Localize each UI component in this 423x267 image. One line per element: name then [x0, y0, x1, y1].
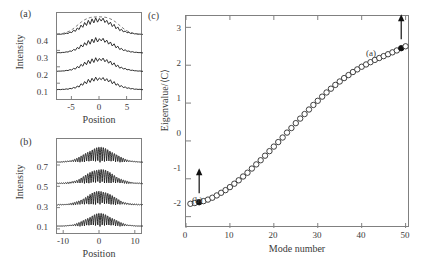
panel-a-xtick-0: -5 [58, 102, 84, 112]
panel-c-data-point [284, 130, 289, 135]
panel-c-data-point [306, 107, 311, 112]
panel-c: (c) Eigenvalue/⟨C⟩ 3 2 1 0 -1 -2 (a) (b)… [145, 0, 423, 267]
panel-c-scatter [186, 16, 410, 228]
panel-a-ytick-3: 0.1 [24, 87, 48, 97]
panel-c-label: (c) [148, 10, 159, 21]
panel-b: (b) Intensity 0.7 0.5 0.3 0.1 -10 0 10 P… [0, 130, 150, 267]
panel-c-annotation-arrow-head [398, 14, 404, 21]
panel-b-tickmarks [56, 138, 146, 240]
panel-c-ytick-n1: -1 [158, 163, 181, 173]
panel-c-data-point [319, 94, 324, 99]
panel-b-xtick-0: -10 [50, 236, 76, 246]
panel-c-xtick-5: 50 [393, 230, 417, 240]
panel-c-data-point [271, 144, 276, 149]
panel-c-data-point [262, 153, 267, 158]
panel-c-xtick-0: 0 [173, 230, 197, 240]
panel-b-xtick-1: 0 [86, 236, 112, 246]
panel-a-ytick-0: 0.4 [24, 36, 48, 46]
panel-c-data-point [302, 111, 307, 116]
panel-c-ytick-3: 3 [163, 23, 181, 33]
panel-a-xlabel: Position [56, 114, 142, 125]
panel-c-data-point [245, 170, 250, 175]
panel-b-xlabel: Position [56, 248, 142, 259]
panel-a-ylabel: Intensity [14, 12, 25, 92]
panel-c-data-point [298, 116, 303, 121]
panel-c-xtick-2: 20 [261, 230, 285, 240]
panel-a-ytick-1: 0.3 [24, 53, 48, 63]
panel-a-xtick-1: 0 [86, 102, 112, 112]
panel-c-ytick-n2: -2 [158, 198, 181, 208]
panel-c-ytick-2: 2 [163, 58, 181, 68]
panel-c-data-point [276, 139, 281, 144]
panel-c-annotation-b-label: (b) [192, 195, 203, 205]
panel-c-data-point [258, 158, 263, 163]
panel-b-ytick-3: 0.1 [24, 222, 48, 232]
panel-c-annotation-arrow-head [196, 168, 202, 175]
panel-b-ytick-1: 0.5 [24, 182, 48, 192]
panel-a: (a) Intensity 0.4 0.3 0.2 0.1 -5 0 5 Pos… [0, 0, 150, 130]
panel-c-xlabel: Mode number [185, 243, 409, 254]
panel-c-xtick-3: 30 [305, 230, 329, 240]
panel-c-data-point [293, 120, 298, 125]
panel-c-xtick-1: 10 [217, 230, 241, 240]
panel-c-data-point [289, 125, 294, 130]
panel-c-data-point [267, 148, 272, 153]
panel-a-tickmarks [56, 12, 146, 106]
panel-a-xtick-2: 5 [114, 102, 140, 112]
figure-panel-group: (a) Intensity 0.4 0.3 0.2 0.1 -5 0 5 Pos… [0, 0, 423, 267]
panel-c-data-point [315, 98, 320, 103]
panel-c-data-point [249, 166, 254, 171]
panel-c-annotation-a-label: (a) [366, 48, 376, 58]
panel-c-ytick-0: 1 [163, 93, 181, 103]
panel-a-ytick-2: 0.2 [24, 70, 48, 80]
panel-c-data-point [311, 102, 316, 107]
panel-c-data-point [254, 162, 259, 167]
panel-b-ytick-2: 0.3 [24, 202, 48, 212]
panel-b-ytick-0: 0.7 [24, 162, 48, 172]
panel-c-xtick-4: 40 [349, 230, 373, 240]
panel-c-data-point [403, 44, 408, 49]
panel-c-ytick-n0: 0 [163, 128, 181, 138]
panel-c-data-point [280, 135, 285, 140]
panel-c-plot-area [185, 15, 409, 227]
